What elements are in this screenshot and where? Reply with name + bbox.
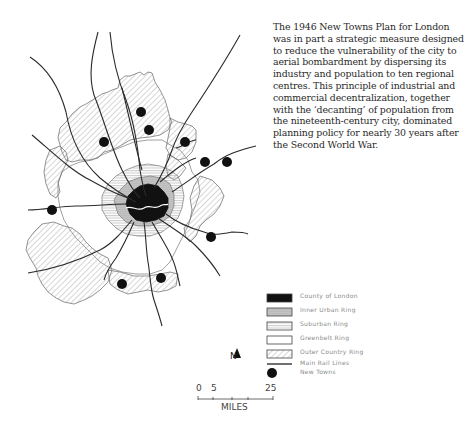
caption-line: the Second World War.	[273, 139, 473, 151]
caption-line: the nineteenth-century city, dominated	[273, 115, 473, 127]
caption-line: industry and population to ten regional	[273, 68, 473, 80]
caption-line: centres. This principle of industrial an…	[273, 80, 473, 92]
map-caption: The 1946 New Towns Plan for London was i…	[273, 21, 473, 151]
scale-tick-25: 25	[265, 383, 276, 393]
new-town-dot	[136, 107, 146, 117]
new-town-dot	[99, 137, 109, 147]
caption-line: was in part a strategic measure designed	[273, 33, 473, 45]
caption-line: with the ‘decanting’ of population from	[273, 104, 473, 116]
new-town-dot	[156, 273, 166, 283]
north-label: N	[230, 351, 237, 361]
new-town-dot	[144, 125, 154, 135]
legend-label-greenbelt-ring: Greenbelt Ring	[300, 334, 349, 341]
caption-line: commercial decentralization, together	[273, 92, 473, 104]
new-town-dot	[47, 205, 57, 215]
caption-line: aerial bombardment by dispersing its	[273, 56, 473, 68]
legend-symbols	[267, 294, 292, 378]
legend-label-inner-urban-ring: Inner Urban Ring	[300, 306, 356, 313]
caption-line: planning policy for nearly 30 years afte…	[273, 127, 473, 139]
legend-label-new-towns: New Towns	[300, 368, 336, 375]
legend-label-county-of-london: County of London	[300, 292, 358, 299]
scale-tick-0: 0	[196, 383, 202, 393]
new-town-dot	[222, 157, 232, 167]
scale-labels: 0 5 25 MILES	[196, 383, 288, 413]
new-town-dot	[206, 232, 216, 242]
scale-unit: MILES	[221, 402, 248, 412]
scale-tick-5: 5	[211, 383, 217, 393]
legend-label-outer-country-ring: Outer Country Ring	[300, 348, 364, 355]
new-town-dot	[200, 157, 210, 167]
new-town-dot	[117, 279, 127, 289]
caption-line: The 1946 New Towns Plan for London	[273, 21, 473, 33]
legend-label-suburban-ring: Suburban Ring	[300, 320, 348, 327]
caption-line: to reduce the vulnerability of the city …	[273, 45, 473, 57]
legend-label-main-rail-lines: Main Rail Lines	[300, 359, 349, 366]
new-town-dot	[180, 137, 190, 147]
